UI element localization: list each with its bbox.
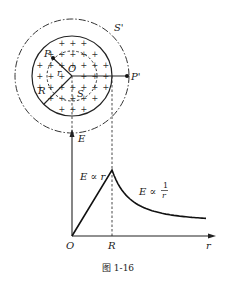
- label-outside-den: r: [162, 191, 167, 200]
- label-r-axis: r: [206, 240, 212, 251]
- charge-plus: +: [37, 72, 44, 81]
- label-R-tick: R: [107, 240, 116, 251]
- charge-plus: +: [92, 94, 99, 103]
- charge-plus: +: [59, 94, 66, 103]
- label-O-center: O: [68, 63, 76, 74]
- charge-plus: +: [103, 61, 110, 70]
- label-P-prime: P': [130, 71, 140, 82]
- charge-plus: +: [92, 61, 99, 70]
- charge-plus: +: [37, 61, 44, 70]
- charge-plus: +: [59, 39, 66, 48]
- charge-plus: +: [70, 50, 77, 59]
- charge-plus: +: [81, 50, 88, 59]
- charge-plus: +: [48, 72, 55, 81]
- x-axis-arrow: [208, 234, 216, 239]
- label-R-sphere: R: [37, 85, 46, 96]
- label-inside-relation: E ∝ r: [79, 171, 106, 182]
- point-P: [51, 56, 55, 60]
- charge-plus: +: [70, 83, 77, 92]
- charge-plus: +: [48, 61, 55, 70]
- charge-plus: +: [81, 105, 88, 114]
- charge-plus: +: [70, 39, 77, 48]
- charge-plus: +: [70, 105, 77, 114]
- charge-plus: +: [92, 83, 99, 92]
- charge-plus: +: [81, 61, 88, 70]
- figure-caption: 图 1-16: [102, 263, 134, 273]
- charge-plus: +: [70, 94, 77, 103]
- figure-canvas: ++++++++++++++++++++++++++++++++++++ P P…: [0, 0, 226, 285]
- charge-plus: +: [92, 50, 99, 59]
- label-outside-relation: E ∝: [138, 186, 156, 197]
- label-S: S: [77, 88, 84, 99]
- charge-plus: +: [59, 50, 66, 59]
- point-P-prime: [125, 74, 129, 78]
- charge-plus: +: [81, 39, 88, 48]
- label-origin: O: [66, 240, 74, 251]
- label-S-prime: S': [114, 22, 124, 33]
- charge-plus: +: [48, 83, 55, 92]
- charge-plus: +: [103, 83, 110, 92]
- label-P: P: [43, 48, 51, 59]
- label-r: r: [57, 68, 62, 78]
- charge-plus: +: [59, 105, 66, 114]
- label-outside-num: 1: [163, 181, 168, 190]
- label-E-axis: E: [77, 133, 86, 144]
